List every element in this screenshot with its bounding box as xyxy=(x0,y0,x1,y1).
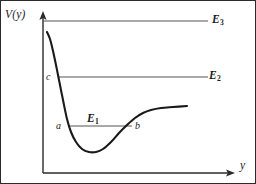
energy-level-subscript-e1: 1 xyxy=(95,117,99,126)
potential-curve xyxy=(47,32,187,152)
energy-level-subscript-e3: 3 xyxy=(220,18,224,27)
energy-level-label-e2: E2 xyxy=(209,70,220,82)
energy-level-label-e1: E1 xyxy=(87,113,98,125)
energy-level-subscript-e2: 2 xyxy=(217,74,221,83)
potential-energy-diagram: V(y) y E3 E2 E1 a b c xyxy=(0,0,256,184)
horizontal-axis-label: y xyxy=(240,160,245,172)
energy-level-label-e3-text: E xyxy=(212,13,220,25)
horizontal-axis xyxy=(43,169,235,176)
vertical-axis xyxy=(39,11,46,173)
energy-level-label-e1-text: E xyxy=(87,112,95,124)
turning-point-label-b: b xyxy=(135,121,140,131)
plot-area xyxy=(1,1,256,184)
energy-level-label-e3: E3 xyxy=(212,14,223,26)
turning-point-label-a: a xyxy=(56,121,61,131)
vertical-axis-label: V(y) xyxy=(5,9,26,21)
energy-level-label-e2-text: E xyxy=(209,69,217,81)
turning-point-label-c: c xyxy=(46,72,50,82)
